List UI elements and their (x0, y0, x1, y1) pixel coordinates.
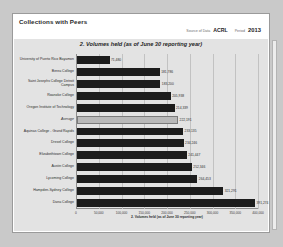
bar-row[interactable]: Drexel College234,246 (76, 139, 258, 147)
bar-row[interactable]: Lycoming College264,453 (76, 175, 258, 183)
bar-row[interactable]: Austin College252,346 (76, 163, 258, 171)
period-label: Period (235, 29, 245, 33)
x-axis-tick: 350,000 (229, 211, 241, 215)
bar-row[interactable]: Saint Josephs College Detroit Campus183,… (76, 80, 258, 88)
bar-row[interactable]: Berea College181,786 (76, 68, 258, 76)
bar[interactable] (77, 116, 178, 124)
x-axis-tick: 150,000 (138, 211, 150, 215)
bar[interactable] (77, 187, 223, 195)
bar-value-label: 205,938 (171, 94, 184, 98)
bar-category-label: Elizabethtown College (16, 153, 74, 157)
bar-category-label: Hampden-Sydney College (16, 189, 74, 193)
bar-category-label: Dana College (16, 201, 74, 205)
x-axis-tick: 50,000 (94, 211, 104, 215)
x-axis-tick: 100,000 (116, 211, 128, 215)
bar-category-label: Drexel College (16, 141, 74, 145)
chart-container: 2. Volumes held (as of June 30 reporting… (14, 39, 268, 231)
bar[interactable] (77, 56, 110, 64)
bar[interactable] (77, 139, 184, 147)
bar[interactable] (77, 163, 192, 171)
period-value: 2013 (248, 27, 261, 33)
bar-value-label: 391,274 (255, 201, 268, 205)
bar-row[interactable]: University of Puerto Rico Bayamon71,480 (76, 56, 258, 64)
bar[interactable] (77, 175, 197, 183)
bar[interactable] (77, 199, 255, 207)
bar-category-label: Aquinas College - Grand Rapids (16, 130, 74, 134)
source-meta: Source of Data ACRL Period 2013 (186, 27, 261, 33)
bar-value-label: 241,447 (187, 153, 200, 157)
page-title: Collections with Peers (19, 18, 87, 25)
bar-row[interactable]: Average222,191 (76, 116, 258, 124)
bar-category-label: Saint Josephs College Detroit Campus (16, 80, 74, 88)
bar-value-label: 233,135 (183, 129, 196, 133)
bar-row[interactable]: Aquinas College - Grand Rapids233,135 (76, 128, 258, 136)
source-of-data-value: ACRL (213, 27, 227, 33)
bar-row[interactable]: Oregon Institute of Technology214,339 (76, 104, 258, 112)
bar[interactable] (77, 151, 187, 159)
bar-category-label: Oregon Institute of Technology (16, 106, 74, 110)
bar-value-label: 321,291 (223, 189, 236, 193)
bar-value-label: 234,246 (184, 141, 197, 145)
bar-category-label: Roanoke College (16, 94, 74, 98)
bar-row[interactable]: Hampden-Sydney College321,291 (76, 187, 258, 195)
bar[interactable] (77, 104, 175, 112)
scrollbar[interactable] (272, 40, 277, 230)
x-axis-tick: 250,000 (184, 211, 196, 215)
x-axis-tick: 400,000 (252, 211, 264, 215)
bar-category-label: University of Puerto Rico Bayamon (16, 58, 74, 62)
bar-category-label: Berea College (16, 70, 74, 74)
bar-chart-plot: University of Puerto Rico Bayamon71,480B… (76, 54, 258, 209)
bar[interactable] (77, 80, 160, 88)
screenshot-root: Collections with Peers Source of Data AC… (0, 0, 283, 247)
bar-value-label: 71,480 (110, 58, 122, 62)
bar-value-label: 252,346 (192, 165, 205, 169)
chart-title: 2. Volumes held (as of June 30 reporting… (14, 41, 268, 47)
bar[interactable] (77, 128, 183, 136)
gridline (258, 54, 259, 209)
bar-category-label: Austin College (16, 165, 74, 169)
bar-row[interactable]: Roanoke College205,938 (76, 92, 258, 100)
bar-value-label: 214,339 (175, 106, 188, 110)
bar[interactable] (77, 92, 171, 100)
x-axis-tick: 200,000 (161, 211, 173, 215)
bar-row[interactable]: Dana College391,274 (76, 199, 258, 207)
bar-value-label: 222,191 (178, 118, 191, 122)
bar-category-label: Lycoming College (16, 177, 74, 181)
bar-value-label: 181,786 (160, 70, 173, 74)
report-card: Collections with Peers Source of Data AC… (12, 13, 270, 233)
source-of-data-label: Source of Data (186, 29, 210, 33)
x-axis-label: 2. Volumes held (as of June 30 reporting… (76, 215, 258, 219)
bar-value-label: 183,200 (160, 82, 173, 86)
x-axis-tick: 300,000 (207, 211, 219, 215)
bar[interactable] (77, 68, 160, 76)
bar-category-label: Average (16, 118, 74, 122)
bar-row[interactable]: Elizabethtown College241,447 (76, 151, 258, 159)
x-axis-tick: 0 (75, 211, 77, 215)
bar-value-label: 264,453 (197, 177, 210, 181)
